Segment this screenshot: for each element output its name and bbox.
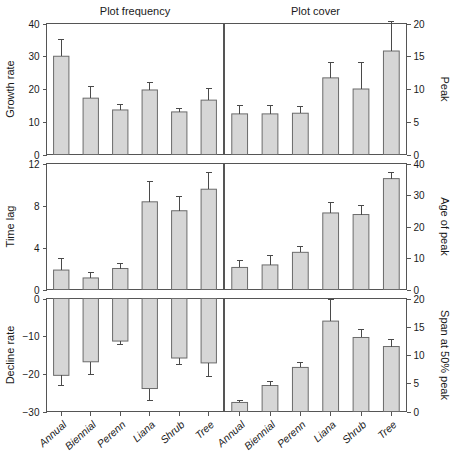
panel-frame-peak xyxy=(225,24,407,155)
panel-time-lag: 04812Time lag xyxy=(4,159,224,296)
bar-perenn xyxy=(292,252,308,289)
panel-frame-age-of-peak xyxy=(225,164,407,290)
ytick-label: 12 xyxy=(28,159,40,170)
ytick-label: 10 xyxy=(414,350,426,361)
bar-group xyxy=(201,299,216,377)
ytick-label: 15 xyxy=(414,51,426,62)
bar-group xyxy=(113,299,128,345)
ytick-label: 20 xyxy=(28,84,40,95)
bar-tree xyxy=(201,100,216,154)
multi-panel-bar-chart: Plot frequencyPlot cover010203040Growth … xyxy=(0,0,454,471)
bar-annual xyxy=(54,299,69,376)
panel-growth-rate: 010203040Growth rate xyxy=(4,19,224,161)
bar-perenn xyxy=(113,299,128,342)
bar-liana xyxy=(323,78,339,155)
bar-shrub xyxy=(353,337,369,411)
bar-group xyxy=(172,299,187,365)
bar-annual xyxy=(54,270,69,289)
xtick-label-perenn: Perenn xyxy=(94,418,127,450)
bar-group xyxy=(232,260,248,289)
xtick-label-biennial: Biennial xyxy=(242,418,278,452)
y-axis-title-peak: Peak xyxy=(439,76,451,102)
bar-group xyxy=(172,196,187,289)
bar-shrub xyxy=(172,211,187,290)
bar-biennial xyxy=(262,386,278,412)
bar-group xyxy=(113,104,128,154)
bar-liana xyxy=(142,90,157,155)
y-axis-title-age-of-peak: Age of peak xyxy=(439,197,451,256)
bar-tree xyxy=(383,347,399,412)
bar-shrub xyxy=(172,299,187,359)
panel-title-plot-cover: Plot cover xyxy=(291,5,340,17)
bar-group xyxy=(292,246,308,289)
bar-biennial xyxy=(83,98,98,154)
bar-group xyxy=(142,182,157,290)
bar-biennial xyxy=(262,265,278,290)
bar-annual xyxy=(232,267,248,289)
bar-annual xyxy=(232,402,248,411)
ytick-label: 40 xyxy=(414,159,426,170)
ytick-label: 30 xyxy=(28,51,40,62)
bar-tree xyxy=(383,51,399,154)
bar-group xyxy=(383,340,399,412)
ytick-label: 0 xyxy=(34,294,40,305)
bar-annual xyxy=(54,56,69,154)
panel-titles: Plot frequencyPlot cover xyxy=(100,5,340,17)
bar-perenn xyxy=(113,269,128,290)
bar-group xyxy=(201,172,216,289)
bar-biennial xyxy=(83,299,98,362)
ytick-label: 4 xyxy=(34,243,40,254)
bar-group xyxy=(292,107,308,155)
bar-shrub xyxy=(353,215,369,290)
ytick-label: 5 xyxy=(414,378,420,389)
bar-group xyxy=(262,382,278,412)
ytick-label: −20 xyxy=(23,369,40,380)
bar-group xyxy=(323,203,339,290)
ytick-label: 20 xyxy=(414,294,426,305)
bar-group xyxy=(353,329,369,411)
ytick-label: 40 xyxy=(28,19,40,30)
bar-group xyxy=(142,299,157,401)
panel-frame-decline-rate xyxy=(47,299,224,412)
panel-age-of-peak: 010203040Age of peak xyxy=(225,159,452,296)
xtick-label-tree: Tree xyxy=(193,418,217,441)
bar-group xyxy=(323,62,339,154)
panel-frame-span-at-50-peak xyxy=(225,299,407,412)
ytick-label: 30 xyxy=(414,190,426,201)
panel-span-at-50-peak: 05101520Span at 50% peakAnnualBiennialPe… xyxy=(214,294,451,452)
bar-group xyxy=(383,173,399,290)
bar-shrub xyxy=(172,112,187,155)
xtick-label-tree: Tree xyxy=(375,418,399,441)
figure-container: Plot frequencyPlot cover010203040Growth … xyxy=(0,0,454,471)
ytick-label: 10 xyxy=(414,84,426,95)
y-axis-title-span-at-50-peak: Span at 50% peak xyxy=(439,310,451,400)
ytick-label: 0 xyxy=(414,407,420,418)
xtick-label-shrub: Shrub xyxy=(339,418,368,446)
bar-group xyxy=(113,264,128,290)
bar-perenn xyxy=(292,113,308,154)
bar-group xyxy=(54,299,69,386)
bar-group xyxy=(232,400,248,411)
bar-group xyxy=(201,88,216,154)
bar-shrub xyxy=(353,89,369,155)
ytick-label: 15 xyxy=(414,322,426,333)
y-axis-title-growth-rate: Growth rate xyxy=(4,60,16,117)
xtick-label-biennial: Biennial xyxy=(62,418,98,452)
y-axis-title-time-lag: Time lag xyxy=(4,206,16,248)
y-axis-title-decline-rate: Decline rate xyxy=(4,326,16,385)
panel-frame-time-lag xyxy=(47,164,224,290)
ytick-label: −10 xyxy=(23,331,40,342)
ytick-label: 8 xyxy=(34,201,40,212)
xtick-label-liana: Liana xyxy=(130,418,157,444)
bar-group xyxy=(83,86,98,154)
bar-liana xyxy=(323,213,339,290)
bar-group xyxy=(262,105,278,154)
bar-tree xyxy=(201,189,216,289)
bar-perenn xyxy=(113,110,128,155)
ytick-label: 10 xyxy=(28,117,40,128)
bar-biennial xyxy=(262,114,278,155)
bar-group xyxy=(142,82,157,154)
bar-group xyxy=(353,206,369,290)
bar-tree xyxy=(383,179,399,290)
bar-liana xyxy=(142,299,157,389)
